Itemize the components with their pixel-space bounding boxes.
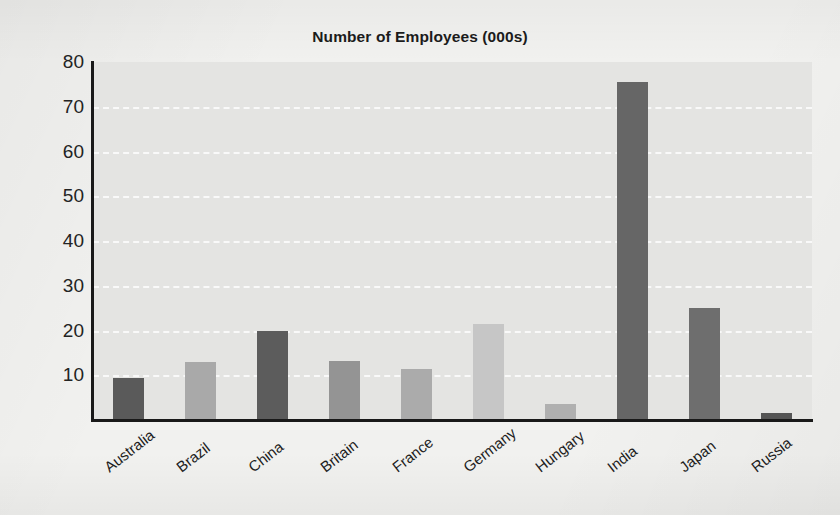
x-tick-label-britain: Britain	[317, 436, 361, 476]
bar-brazil[interactable]	[185, 362, 216, 420]
bar-hungary[interactable]	[545, 404, 576, 420]
y-tick-label-50: 50	[38, 186, 84, 205]
y-tick-label-80: 80	[38, 52, 84, 71]
bar-australia[interactable]	[113, 378, 144, 421]
gridline-30	[93, 286, 812, 288]
y-tick-label-20: 20	[38, 321, 84, 340]
bar-germany[interactable]	[473, 324, 504, 420]
y-axis-line	[91, 61, 94, 421]
bar-japan[interactable]	[689, 308, 720, 420]
bar-britain[interactable]	[329, 361, 360, 420]
gridline-40	[93, 241, 812, 243]
bar-china[interactable]	[257, 331, 288, 421]
y-tick-label-40: 40	[38, 231, 84, 250]
gridline-70	[93, 107, 812, 109]
bar-india[interactable]	[617, 82, 648, 420]
chart-title: Number of Employees (000s)	[0, 28, 840, 46]
x-tick-label-australia: Australia	[101, 426, 157, 475]
x-axis-tick-labels: AustraliaBrazilChinaBritainFranceGermany…	[0, 428, 840, 515]
plot-area	[93, 62, 812, 420]
chart-screenshot: Number of Employees (000s) 8070605040302…	[0, 0, 840, 515]
x-tick-label-germany: Germany	[460, 424, 519, 475]
y-tick-label-30: 30	[38, 276, 84, 295]
x-tick-label-hungary: Hungary	[532, 427, 587, 475]
x-axis-line	[91, 419, 813, 422]
x-tick-label-france: France	[389, 433, 436, 475]
x-tick-label-russia: Russia	[748, 434, 795, 476]
bar-france[interactable]	[401, 369, 432, 420]
gridline-50	[93, 196, 812, 198]
y-tick-label-10: 10	[38, 365, 84, 384]
x-tick-label-india: India	[604, 442, 640, 475]
y-tick-label-60: 60	[38, 142, 84, 161]
y-tick-label-70: 70	[38, 97, 84, 116]
plot-inner	[93, 62, 812, 420]
x-tick-label-china: China	[245, 438, 286, 476]
x-tick-label-japan: Japan	[676, 437, 719, 476]
x-tick-label-brazil: Brazil	[173, 439, 213, 475]
gridline-60	[93, 152, 812, 154]
